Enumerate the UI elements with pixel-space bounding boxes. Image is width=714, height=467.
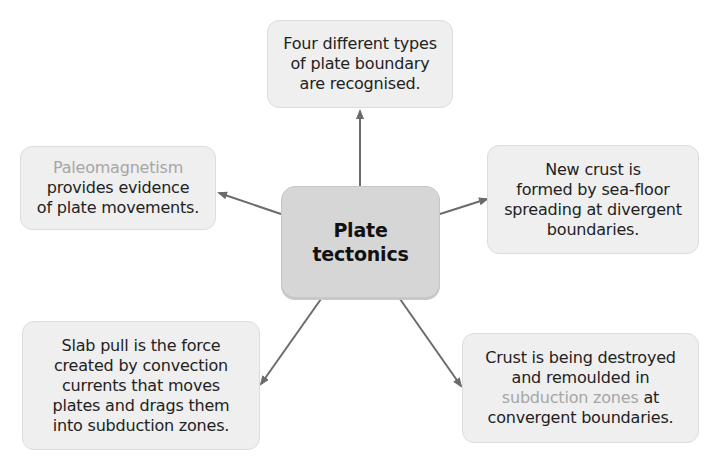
node-text-line: plates and drags them xyxy=(53,396,230,416)
node-text-fragment: at xyxy=(639,388,660,407)
node-paleomagnetism: Paleomagnetism provides evidence of plat… xyxy=(20,146,216,230)
node-text-line: Crust is being destroyed xyxy=(485,348,676,368)
node-text-line: boundaries. xyxy=(504,220,682,240)
node-text-line: are recognised. xyxy=(283,74,437,94)
node-text-line: convergent boundaries. xyxy=(485,408,676,428)
arrow-to-left xyxy=(219,193,281,214)
highlighted-term: subduction zones xyxy=(502,388,639,407)
node-text-line: into subduction zones. xyxy=(53,416,230,436)
node-text-line: currents that moves xyxy=(53,376,230,396)
node-sea-floor-spreading: New crust is formed by sea-floor spreadi… xyxy=(487,145,699,254)
node-text-line: New crust is xyxy=(504,160,682,180)
arrow-to-bottom-left xyxy=(261,299,321,384)
node-subduction-zones: Crust is being destroyed and remoulded i… xyxy=(462,333,699,443)
node-text-line: Slab pull is the force xyxy=(53,336,230,356)
node-slab-pull: Slab pull is the force created by convec… xyxy=(22,321,260,450)
node-text-line: and remoulded in xyxy=(485,368,676,388)
node-text-line: provides evidence xyxy=(37,178,199,198)
center-node-plate-tectonics: Plate tectonics xyxy=(281,186,440,298)
node-plate-boundary-types: Four different types of plate boundary a… xyxy=(267,20,453,108)
node-text-line: of plate boundary xyxy=(283,54,437,74)
node-text-line: subduction zones at xyxy=(485,388,676,408)
arrow-to-right xyxy=(440,199,487,214)
node-text-line: created by convection xyxy=(53,356,230,376)
node-text-line: spreading at divergent xyxy=(504,200,682,220)
node-text-line: formed by sea-floor xyxy=(504,180,682,200)
node-text-line: Four different types xyxy=(283,34,437,54)
highlighted-term: Paleomagnetism xyxy=(37,158,199,178)
center-title-line1: Plate xyxy=(312,218,408,242)
node-text-line: of plate movements. xyxy=(37,198,199,218)
center-title-line2: tectonics xyxy=(312,242,408,266)
arrow-to-bottom-right xyxy=(400,299,461,386)
